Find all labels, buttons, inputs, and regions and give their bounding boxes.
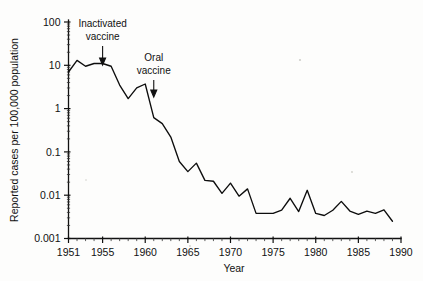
- y-axis-tick-labels: 1001010.10.010.001: [34, 16, 60, 245]
- annotation-inactivated-vaccine: Inactivated vaccine: [78, 18, 126, 65]
- y-tick-label-0.01: 0.01: [40, 189, 61, 201]
- y-tick-label-10: 10: [49, 59, 61, 71]
- x-tick-label-1960: 1960: [134, 246, 158, 258]
- x-axis-tick-labels: 195119551960196519701975198019851990: [57, 246, 413, 258]
- annotation-oral-vaccine-label-line2: vaccine: [137, 65, 171, 76]
- y-axis-major-ticks: [64, 22, 71, 239]
- x-tick-label-1951: 1951: [57, 246, 81, 258]
- x-tick-label-1980: 1980: [304, 246, 328, 258]
- y-tick-label-0.1: 0.1: [46, 146, 61, 158]
- scan-artifacts: [85, 59, 353, 247]
- polio-incidence-line-chart: 1001010.10.010.001 195119551960196519701…: [0, 0, 423, 281]
- series-line-reported-cases: [69, 60, 393, 221]
- data-series-group: [69, 60, 393, 221]
- y-tick-label-0.001: 0.001: [34, 232, 60, 244]
- y-axis-title: Reported cases per 100,000 population: [8, 38, 20, 222]
- annotation-oral-vaccine-arrow-head: [151, 90, 157, 97]
- x-axis: 195119551960196519701975198019851990: [57, 237, 413, 258]
- x-tick-label-1985: 1985: [347, 246, 371, 258]
- y-tick-label-1: 1: [55, 102, 61, 114]
- y-tick-label-100: 100: [43, 16, 61, 28]
- x-tick-label-1990: 1990: [389, 246, 413, 258]
- x-tick-label-1975: 1975: [261, 246, 285, 258]
- x-tick-label-1965: 1965: [176, 246, 200, 258]
- x-tick-label-1955: 1955: [91, 246, 115, 258]
- annotation-oral-vaccine: Oral vaccine: [137, 52, 171, 97]
- x-axis-title: Year: [223, 262, 245, 274]
- y-axis: 1001010.10.010.001: [34, 16, 70, 245]
- annotation-oral-vaccine-label-line1: Oral: [144, 52, 163, 63]
- x-tick-label-1970: 1970: [219, 246, 243, 258]
- figure-container: 1001010.10.010.001 195119551960196519701…: [0, 0, 423, 281]
- x-axis-major-ticks: [69, 237, 402, 244]
- annotation-inactivated-vaccine-label-line2: vaccine: [86, 31, 120, 42]
- annotation-inactivated-vaccine-label-line1: Inactivated: [78, 18, 126, 29]
